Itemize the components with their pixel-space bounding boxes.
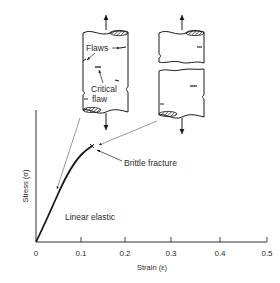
x-tick-0.1: 0.1 (75, 249, 87, 258)
stress-strain-chart: 0 0.1 0.2 0.3 0.4 0.5 Strain (ε) Stress … (21, 110, 273, 272)
x-tick-0.4: 0.4 (214, 249, 226, 258)
brittle-fracture-diagram: Flaws Critical flaw 0 0.1 0.2 0.3 (0, 0, 280, 283)
flaws-label: Flaws (86, 43, 108, 53)
cross-section-top (110, 30, 128, 35)
x-tick-0.5: 0.5 (261, 249, 273, 258)
stress-strain-curve (36, 146, 92, 242)
critical-flaw-label-line2: flaw (92, 94, 108, 104)
x-axis-label: Strain (ε) (137, 263, 168, 272)
fractured-specimen (159, 15, 204, 134)
x-tick-0: 0 (34, 249, 39, 258)
x-tick-0.3: 0.3 (165, 249, 177, 258)
leader-line-fractured (99, 121, 157, 145)
leader-line-intact (57, 118, 80, 189)
x-tick-0.2: 0.2 (119, 249, 131, 258)
linear-elastic-label: Linear elastic (65, 212, 116, 222)
y-axis-label: Stress (σ) (21, 169, 30, 202)
intact-specimen: Flaws Critical flaw (83, 15, 128, 130)
brittle-fracture-label: Brittle fracture (124, 158, 177, 168)
cross-section-bottom (83, 107, 101, 112)
critical-flaw-label: Critical (91, 84, 117, 94)
